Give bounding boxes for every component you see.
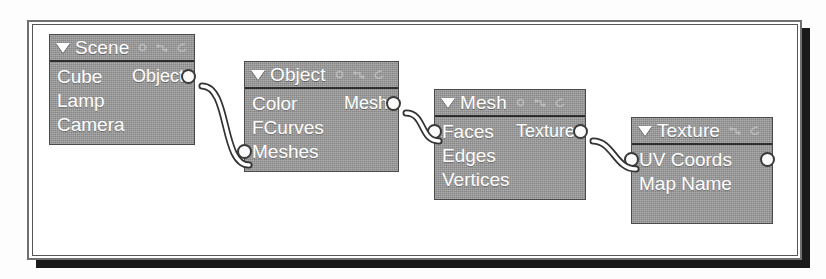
node-sockets-icon[interactable] bbox=[353, 70, 365, 80]
node-scene[interactable]: Scene Cube bbox=[49, 34, 195, 145]
node-scene-row-2[interactable]: Camera bbox=[57, 112, 188, 136]
socket-object-mesh-output[interactable] bbox=[386, 96, 401, 111]
node-object-body: Color Mesh FCurves Meshes bbox=[245, 89, 398, 171]
socket-texture-output[interactable] bbox=[760, 152, 775, 167]
node-object-title: Object bbox=[270, 65, 326, 84]
node-mesh-row-2[interactable]: Vertices bbox=[442, 167, 579, 191]
node-sockets-icon[interactable] bbox=[534, 98, 546, 108]
node-options-icon[interactable] bbox=[516, 98, 525, 107]
socket-object-meshes-input[interactable] bbox=[237, 144, 252, 159]
collapse-triangle-icon[interactable] bbox=[638, 126, 652, 136]
node-texture[interactable]: Texture UV Coords bbox=[631, 117, 773, 224]
node-mesh-row-1[interactable]: Edges bbox=[442, 143, 579, 167]
node-scene-title: Scene bbox=[75, 38, 129, 57]
node-options-icon[interactable] bbox=[335, 70, 344, 79]
node-preview-icon[interactable] bbox=[374, 70, 384, 80]
node-preview-icon[interactable] bbox=[750, 126, 760, 136]
node-object-row-0-output-label: Mesh bbox=[344, 94, 388, 112]
node-mesh-row-1-label: Edges bbox=[442, 146, 496, 165]
node-mesh-row-0[interactable]: Faces Texture bbox=[442, 119, 579, 143]
node-mesh-header[interactable]: Mesh bbox=[435, 90, 585, 117]
node-texture-header-icons[interactable] bbox=[729, 126, 760, 136]
node-mesh-row-2-label: Vertices bbox=[442, 170, 510, 189]
node-texture-row-filler bbox=[639, 195, 766, 215]
node-scene-row-2-label: Camera bbox=[57, 115, 125, 134]
collapse-triangle-icon[interactable] bbox=[441, 98, 455, 108]
node-scene-row-1-label: Lamp bbox=[57, 91, 105, 110]
socket-mesh-texture-output[interactable] bbox=[573, 124, 588, 139]
node-preview-icon[interactable] bbox=[555, 98, 565, 108]
collapse-triangle-icon[interactable] bbox=[56, 43, 70, 53]
node-object-row-2-label: Meshes bbox=[252, 142, 319, 161]
node-object-header[interactable]: Object bbox=[245, 62, 398, 89]
node-scene-header-icons[interactable] bbox=[138, 43, 187, 53]
node-object-row-1[interactable]: FCurves bbox=[252, 115, 392, 139]
node-object-row-0[interactable]: Color Mesh bbox=[252, 91, 392, 115]
node-scene-row-0-output-label: Object bbox=[132, 67, 184, 85]
socket-scene-object-output[interactable] bbox=[181, 69, 196, 84]
node-texture-title: Texture bbox=[657, 121, 720, 140]
node-object-row-0-label: Color bbox=[252, 94, 297, 113]
node-graph[interactable]: Scene Cube bbox=[33, 25, 797, 255]
socket-mesh-faces-input[interactable] bbox=[427, 124, 442, 139]
node-object[interactable]: Object Color bbox=[244, 61, 399, 172]
node-sockets-icon[interactable] bbox=[156, 43, 168, 53]
node-mesh[interactable]: Mesh Faces bbox=[434, 89, 586, 200]
node-mesh-title: Mesh bbox=[460, 93, 507, 112]
node-mesh-row-0-label: Faces bbox=[442, 122, 494, 141]
node-scene-body: Cube Object Lamp Camera bbox=[50, 62, 194, 144]
node-texture-header[interactable]: Texture bbox=[632, 118, 772, 145]
node-texture-row-1[interactable]: Map Name bbox=[639, 171, 766, 195]
node-texture-row-0[interactable]: UV Coords bbox=[639, 147, 766, 171]
node-scene-row-0-label: Cube bbox=[57, 67, 102, 86]
node-texture-row-1-label: Map Name bbox=[639, 174, 732, 193]
node-mesh-row-0-output-label: Texture bbox=[516, 122, 575, 140]
node-options-icon[interactable] bbox=[138, 43, 147, 52]
node-texture-row-0-label: UV Coords bbox=[639, 150, 732, 169]
figure-canvas: Scene Cube bbox=[0, 0, 826, 279]
node-texture-body: UV Coords Map Name bbox=[632, 145, 772, 223]
node-scene-row-1[interactable]: Lamp bbox=[57, 88, 188, 112]
node-sockets-icon[interactable] bbox=[729, 126, 741, 136]
node-mesh-header-icons[interactable] bbox=[516, 98, 565, 108]
node-scene-header[interactable]: Scene bbox=[50, 35, 194, 62]
node-object-header-icons[interactable] bbox=[335, 70, 384, 80]
node-scene-row-0[interactable]: Cube Object bbox=[57, 64, 188, 88]
node-object-row-2[interactable]: Meshes bbox=[252, 139, 392, 163]
node-object-row-1-label: FCurves bbox=[252, 118, 324, 137]
node-preview-icon[interactable] bbox=[177, 43, 187, 53]
node-mesh-body: Faces Texture Edges Vertices bbox=[435, 117, 585, 199]
collapse-triangle-icon[interactable] bbox=[251, 70, 265, 80]
socket-texture-uvcoords-input[interactable] bbox=[624, 152, 639, 167]
